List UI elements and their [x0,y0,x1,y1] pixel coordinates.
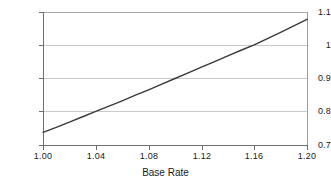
plot-curve-layer [0,0,331,189]
x-axis-title: Base Rate [0,167,331,179]
chart-container: 1.1 1 0.9 0.8 0.7 1.00 1.04 1.08 1.12 1.… [0,0,331,189]
data-series-line [43,19,307,132]
